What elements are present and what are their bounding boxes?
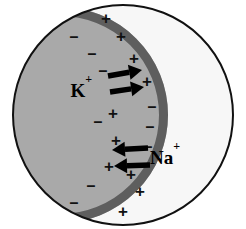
intracellular-negative-sign-4: – xyxy=(87,177,96,194)
intracellular-negative-sign-5: – xyxy=(70,194,79,211)
intracellular-negative-sign-1: – xyxy=(88,45,97,62)
extracellular-positive-sign-2: + xyxy=(129,49,139,68)
cell-diagram: ––––––++++++++++––– K+ Na+ xyxy=(0,0,246,229)
na-arrow-lower-shaft xyxy=(127,165,150,166)
extracellular-positive-sign-5: + xyxy=(135,182,145,201)
intracellular-negative-sign-3: – xyxy=(94,113,103,130)
extracellular-negative-sign-0: – xyxy=(148,98,157,115)
k-arrow-upper-shaft xyxy=(108,72,129,76)
k-arrow-lower-shaft xyxy=(110,89,131,92)
figure-canvas: ––––––++++++++++––– K+ Na+ xyxy=(0,0,246,229)
membrane-positive-sign-2: + xyxy=(104,157,114,176)
na-arrow-upper-shaft xyxy=(125,148,148,149)
membrane-positive-sign-0: + xyxy=(108,104,118,123)
extracellular-positive-sign-0: + xyxy=(101,9,111,28)
extracellular-positive-sign-3: + xyxy=(142,72,152,91)
extracellular-positive-sign-6: + xyxy=(118,202,128,221)
intracellular-negative-sign-0: – xyxy=(70,28,79,45)
intracellular-negative-sign-2: – xyxy=(99,62,108,79)
extracellular-negative-sign-1: – xyxy=(146,118,155,135)
extracellular-positive-sign-1: + xyxy=(116,27,126,46)
